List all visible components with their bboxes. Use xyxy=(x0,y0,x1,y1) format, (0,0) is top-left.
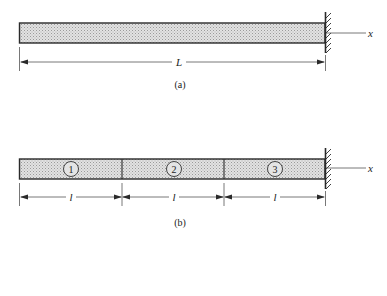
element-1-marker: 1 xyxy=(64,162,79,177)
figure-b: 1 2 3 x xyxy=(20,148,374,229)
length-label-l-1: l xyxy=(69,191,72,203)
element-2-number: 2 xyxy=(172,164,177,175)
fixed-support-a xyxy=(326,12,332,53)
caption-b: (b) xyxy=(174,217,186,229)
beam-a xyxy=(20,23,326,43)
x-axis-label-b: x xyxy=(367,162,373,174)
figure-a: x L (a) xyxy=(20,12,374,91)
caption-a: (a) xyxy=(174,79,185,91)
fixed-support-b xyxy=(326,148,332,189)
length-label-l-3: l xyxy=(273,191,276,203)
element-3-number: 3 xyxy=(273,164,278,175)
x-axis-label-a: x xyxy=(367,27,373,39)
element-1-number: 1 xyxy=(69,164,74,175)
length-label-L: L xyxy=(175,56,182,68)
length-label-l-2: l xyxy=(172,191,175,203)
element-3-marker: 3 xyxy=(268,162,283,177)
element-2-marker: 2 xyxy=(167,162,182,177)
